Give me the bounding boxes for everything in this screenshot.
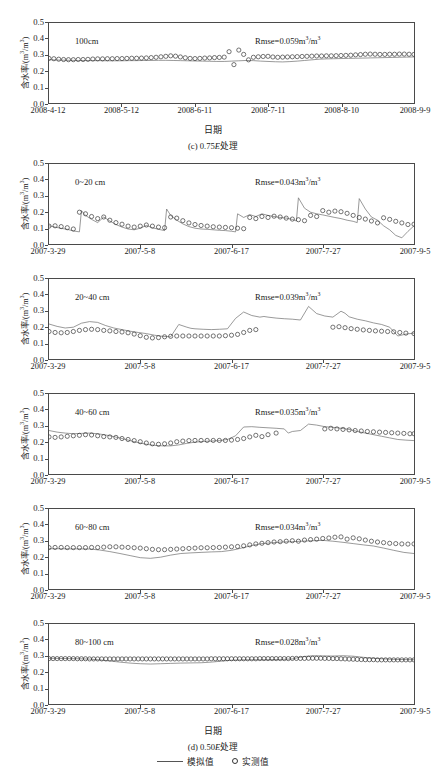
y-tick-mark xyxy=(45,442,48,443)
y-axis-title: 含水率/(m3/m3) xyxy=(18,25,30,101)
x-axis-title: 日期 xyxy=(0,724,426,737)
series-markers-measured xyxy=(49,656,415,662)
series-markers-measured xyxy=(49,209,415,232)
x-tick-label: 2007-9-5 xyxy=(381,593,435,601)
y-tick-mark xyxy=(45,163,48,164)
y-tick-label: 0.5 xyxy=(22,504,44,513)
x-tick-label: 2007-6-17 xyxy=(198,478,266,486)
rmse-label: Rmse=0.039m3/m3 xyxy=(255,292,320,302)
y-tick-label: 0.4 xyxy=(22,34,44,43)
x-tick-mark xyxy=(140,590,141,593)
rmse-label: Rmse=0.035m3/m3 xyxy=(255,407,320,417)
y-tick-label: 0.1 xyxy=(22,454,44,463)
depth-label: 40~60 cm xyxy=(75,407,109,417)
x-tick-label: 2007-3-29 xyxy=(14,363,82,371)
x-tick-label: 2007-3-29 xyxy=(14,478,82,486)
y-tick-mark xyxy=(45,574,48,575)
x-tick-label: 2007-7-27 xyxy=(289,593,357,601)
x-tick-label: 2008-4-12 xyxy=(14,107,82,115)
y-tick-mark xyxy=(45,590,48,591)
x-tick-mark xyxy=(323,590,324,593)
y-tick-label: 0.0 xyxy=(22,701,44,710)
y-tick-label: 0.1 xyxy=(22,569,44,578)
x-tick-mark xyxy=(232,590,233,593)
x-tick-mark xyxy=(268,104,269,107)
y-tick-mark xyxy=(45,426,48,427)
depth-label: 20~40 cm xyxy=(75,292,109,302)
y-tick-label: 0.2 xyxy=(22,553,44,562)
y-tick-mark xyxy=(45,557,48,558)
y-tick-mark xyxy=(45,327,48,328)
x-tick-label: 2008-7-11 xyxy=(234,107,302,115)
x-axis-title: 日期 xyxy=(0,123,426,136)
x-tick-mark xyxy=(232,360,233,363)
x-tick-label: 2007-9-5 xyxy=(381,363,435,371)
y-tick-label: 0.3 xyxy=(22,421,44,430)
x-tick-label: 2007-7-27 xyxy=(289,363,357,371)
y-tick-label: 0.0 xyxy=(22,100,44,109)
y-tick-mark xyxy=(45,196,48,197)
y-tick-label: 0.2 xyxy=(22,438,44,447)
y-tick-mark xyxy=(45,22,48,23)
series-markers-measured xyxy=(49,325,415,340)
x-tick-label: 2007-3-29 xyxy=(14,708,82,716)
y-axis-title: 含水率/(m3/m3) xyxy=(18,281,30,357)
y-axis-title: 含水率/(m3/m3) xyxy=(18,626,30,702)
series-markers-measured xyxy=(49,426,415,446)
depth-label: 100cm xyxy=(75,36,98,46)
x-tick-label: 2007-7-27 xyxy=(289,478,357,486)
y-tick-label: 0.2 xyxy=(22,668,44,677)
x-tick-label: 2007-6-17 xyxy=(198,363,266,371)
plot-area-panel-d-80-100 xyxy=(48,623,415,705)
y-tick-mark xyxy=(45,245,48,246)
y-tick-mark xyxy=(45,229,48,230)
x-tick-label: 2008-6-11 xyxy=(161,107,229,115)
x-tick-label: 2007-5-8 xyxy=(106,708,174,716)
y-tick-label: 0.4 xyxy=(22,405,44,414)
y-tick-mark xyxy=(45,294,48,295)
figure-legend: 模拟值实测值 xyxy=(0,755,426,767)
y-tick-mark xyxy=(45,38,48,39)
y-tick-mark xyxy=(45,409,48,410)
y-tick-label: 0.3 xyxy=(22,306,44,315)
x-tick-label: 2007-3-29 xyxy=(14,593,82,601)
x-tick-mark xyxy=(342,104,343,107)
y-tick-label: 0.3 xyxy=(22,191,44,200)
depth-label: 60~80 cm xyxy=(75,522,109,532)
x-tick-label: 2007-9-5 xyxy=(381,248,435,256)
y-tick-mark xyxy=(45,459,48,460)
y-tick-label: 0.4 xyxy=(22,520,44,529)
x-tick-label: 2007-5-8 xyxy=(106,248,174,256)
x-tick-label: 2007-6-17 xyxy=(198,708,266,716)
x-tick-mark xyxy=(323,360,324,363)
series-line-simulated xyxy=(49,306,414,336)
plot-area-panel-c-100cm xyxy=(48,22,415,104)
series-line-simulated xyxy=(49,57,414,62)
y-tick-label: 0.3 xyxy=(22,651,44,660)
y-axis-title: 含水率/(m3/m3) xyxy=(18,166,30,242)
x-tick-mark xyxy=(232,475,233,478)
y-tick-label: 0.4 xyxy=(22,635,44,644)
x-tick-mark xyxy=(140,360,141,363)
y-tick-mark xyxy=(45,278,48,279)
legend-marker-label: 实测值 xyxy=(242,757,269,767)
x-tick-label: 2008-9-9 xyxy=(381,107,435,115)
y-tick-label: 0.1 xyxy=(22,339,44,348)
x-tick-label: 2007-9-5 xyxy=(381,708,435,716)
rmse-label: Rmse=0.043m3/m3 xyxy=(255,177,320,187)
y-tick-label: 0.2 xyxy=(22,323,44,332)
x-tick-mark xyxy=(140,475,141,478)
y-tick-mark xyxy=(45,311,48,312)
x-tick-mark xyxy=(232,245,233,248)
x-tick-mark xyxy=(140,245,141,248)
y-tick-mark xyxy=(45,88,48,89)
x-tick-label: 2008-5-12 xyxy=(87,107,155,115)
x-tick-mark xyxy=(232,705,233,708)
y-tick-label: 0.3 xyxy=(22,50,44,59)
x-tick-mark xyxy=(323,705,324,708)
